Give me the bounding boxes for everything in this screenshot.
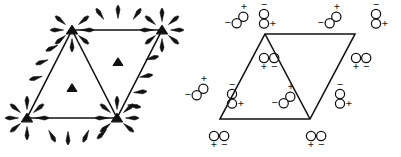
arrow-fan-top-left-1 [55,35,65,44]
dipole-inner-right-plus: + [353,60,359,72]
arrow-fan-top-left-3 [51,28,64,32]
arrow-fan-bottom-left-1 [10,104,20,113]
dipole-right-vertex-circle-b [335,99,344,108]
dipole-top-vertex-right-minus: − [373,0,379,10]
left-panel-outline [27,30,162,118]
dipole-top-outer-left-circle-b [232,19,241,28]
arrow-fan-bottom-left-0 [25,97,29,110]
dipole-left-edge-outer-minus: − [185,88,191,100]
arrow-fan-top-right-0 [160,39,164,52]
arrow-fan-bottom-left-5 [25,127,29,140]
dipole-top-vertex-left-minus: − [261,0,267,10]
arrow-fan-top-left-6 [79,16,89,25]
dipole-left-edge-outer-circle-b [192,91,201,100]
dipole-right-vertex: −+ [335,78,352,109]
edge-arrow-right-3 [134,90,147,94]
dipole-right-vertex-plus: + [346,97,352,109]
dipole-inner-right-minus: − [363,60,369,72]
arrow-fan-bottom-right-1 [100,104,110,113]
edge-arrow-top-2 [116,6,120,19]
edge-arrow-bottom-2 [66,132,70,145]
dipole-top-outer-right-minus: − [318,16,324,28]
edge-arrow-bottom-1 [49,130,56,142]
dipole-right-vertex-minus: − [337,78,343,90]
edge-arrow-top-3 [133,8,141,19]
dipole-bottom-left-plus: + [211,138,217,150]
dipole-bottom-right-plus: + [308,138,314,150]
dipole-top-outer-right-plus: + [334,0,340,12]
dipole-left-edge-outer: +− [185,72,208,100]
dipole-left-vertex-minus: − [229,78,235,90]
dipole-left-vertex-plus: + [238,97,244,109]
dipole-bottom-left: +− [209,131,228,149]
arrow-fan-top-left-0 [70,39,74,52]
arrow-fan-top-left-5 [55,16,65,25]
arrow-fan-top-right-6 [169,16,179,25]
dipole-left-edge-outer-plus: + [201,72,207,84]
arrow-fan-top-right-7 [160,9,164,22]
dipole-top-vertex-right-circle-b [371,19,380,28]
edge-arrow-left-3 [46,45,58,51]
dipole-bottom-right: +− [306,131,325,149]
edge-arrow-left-1 [36,60,48,65]
dipole-top-outer-left-plus: + [241,0,247,12]
dipole-top-outer-left: +− [225,0,248,28]
dipole-inner-left-minus: − [271,60,277,72]
dipole-top-outer-right-circle-b [325,19,334,28]
dipole-left-vertex: −+ [227,78,244,109]
dipole-top-vertex-right: −+ [371,0,388,29]
diagram-canvas: +−−++−−++−+−+−−++−−++−+− [0,0,401,157]
dipole-top-vertex-left-circle-b [259,19,268,28]
dipole-right-vertex-circle-a [335,89,344,98]
dipole-bottom-inner-circle-b [279,99,288,108]
arrow-fan-bottom-right-0 [115,97,119,110]
arrow-fan-top-right-2 [169,35,179,44]
centroid-marker-left [67,84,76,91]
edge-arrow-top-1 [96,8,104,19]
dipole-top-vertex-right-plus: + [382,17,388,29]
edge-arrow-bottom-3 [83,130,89,142]
dipole-top-vertex-left: −+ [259,0,276,29]
edge-arrow-left-2 [30,76,43,80]
arrow-fan-top-right-4 [171,28,184,32]
dipole-inner-left-plus: + [261,60,267,72]
dipole-top-vertex-left-plus: + [270,17,276,29]
dipole-bottom-right-minus: − [318,138,324,150]
dipole-bottom-inner-minus: − [272,96,278,108]
dipole-top-outer-left-minus: − [225,16,231,28]
figure-container: +−−++−−++−+−+−−++−−++−+− [0,0,401,157]
edge-arrow-right-2 [140,74,153,78]
centroid-marker-right [113,58,122,65]
dipole-inner-right: +− [351,53,370,71]
arrow-fan-bottom-left-2 [34,104,44,113]
arrow-fan-bottom-left-6 [10,123,20,132]
arrow-fan-bottom-right-4 [126,116,139,120]
arrow-fan-bottom-right-5 [124,123,134,132]
dipole-top-outer-right: +− [318,0,341,28]
dipole-top-vertex-left-circle-a [259,9,268,18]
dipole-top-vertex-right-circle-a [371,9,380,18]
dipole-bottom-left-minus: − [221,138,227,150]
arrow-fan-bottom-left-3 [6,116,19,120]
arrow-fan-top-left-2 [79,35,89,44]
arrow-fan-top-right-1 [145,35,155,44]
arrow-fan-top-right-5 [145,16,155,25]
left-panel-diagonal [72,30,117,118]
